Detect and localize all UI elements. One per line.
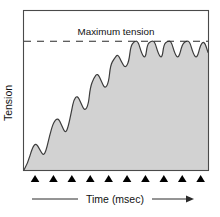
stimulus-arrowhead-icon (160, 175, 169, 182)
y-axis-label: Tension (2, 85, 14, 121)
stimulus-arrowhead-icon (196, 175, 205, 182)
x-axis-arrowhead-icon (186, 196, 194, 203)
stimulus-arrowhead-icon (141, 175, 150, 182)
x-axis-label: Time (msec) (86, 193, 144, 205)
stimulus-arrowhead-icon (49, 175, 58, 182)
maximum-tension-label: Maximum tension (78, 26, 155, 37)
stimulus-arrowhead-icon (31, 175, 40, 182)
stimulus-arrowhead-icon (178, 175, 187, 182)
stimulus-marker-group (31, 175, 205, 182)
stimulus-arrowhead-icon (104, 175, 113, 182)
stimulus-arrowhead-icon (86, 175, 95, 182)
x-axis-label-group: Time (msec) (32, 193, 194, 205)
tetanus-tension-figure: Maximum tension Tension Time (msec) (0, 0, 220, 217)
stimulus-arrowhead-icon (123, 175, 132, 182)
stimulus-arrowhead-icon (68, 175, 77, 182)
chart-canvas: Maximum tension Tension Time (msec) (0, 0, 220, 217)
